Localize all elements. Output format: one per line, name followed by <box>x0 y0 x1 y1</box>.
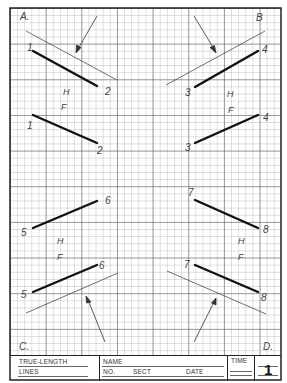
corner-label-c: C. <box>19 342 29 352</box>
point-label-3: 3 <box>185 143 191 153</box>
point-label-2: 2 <box>97 146 103 156</box>
title-line-2: LINES <box>19 368 39 375</box>
time-cell: TIME <box>228 356 255 381</box>
time-label: TIME <box>231 357 247 364</box>
corner-label-b: B <box>256 13 263 23</box>
plane-label-f: F <box>228 106 234 115</box>
plane-label-f: F <box>61 103 67 112</box>
point-label-4: 4 <box>262 45 268 55</box>
drawing-sheet: .lbl{position:absolute;font-style:italic… <box>0 0 287 383</box>
plane-label-h: H <box>63 88 70 97</box>
plane-label-f: F <box>238 253 244 262</box>
grid-drawing <box>0 0 287 383</box>
date-label: DATE <box>186 368 204 375</box>
point-label-3: 3 <box>185 88 191 98</box>
point-label-7: 7 <box>188 188 194 198</box>
corner-label-a: A. <box>20 12 29 22</box>
point-label-6: 6 <box>105 196 111 206</box>
section-label: SECT <box>133 368 151 375</box>
title-block: TRUE-LENGTH LINES NAME NO. SECT DATE TIM… <box>10 355 281 380</box>
student-info-cell: NAME NO. SECT DATE <box>100 356 228 381</box>
point-label-4: 4 <box>263 113 269 123</box>
point-label-7: 7 <box>184 260 190 270</box>
plane-label-f: F <box>57 253 63 262</box>
point-label-5: 5 <box>21 228 27 238</box>
point-label-1: 1 <box>27 43 33 53</box>
number-label: NO. <box>103 368 115 375</box>
title-line-1: TRUE-LENGTH <box>19 358 67 365</box>
sheet-number-cell: 1 <box>255 356 281 381</box>
point-label-5: 5 <box>21 290 27 300</box>
point-label-2: 2 <box>105 87 111 97</box>
plane-label-h: H <box>57 237 64 246</box>
point-label-8: 8 <box>263 225 269 235</box>
sheet-number: 1 <box>264 361 272 378</box>
corner-label-d: D. <box>263 342 273 352</box>
plane-label-h: H <box>227 90 234 99</box>
plane-label-h: H <box>238 237 245 246</box>
title-cell: TRUE-LENGTH LINES <box>10 356 100 381</box>
point-label-1: 1 <box>27 121 33 131</box>
point-label-6: 6 <box>99 261 105 271</box>
name-label: NAME <box>103 358 123 365</box>
point-label-8: 8 <box>261 293 267 303</box>
